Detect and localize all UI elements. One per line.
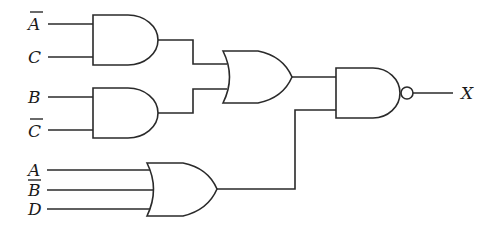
input-label-a-bar: A <box>26 12 43 34</box>
input-label-b-bar: B <box>27 180 41 200</box>
label-c-bar: C <box>28 121 41 141</box>
inversion-bubble <box>401 87 413 99</box>
label-c: C <box>28 47 41 67</box>
or-gate-2 <box>147 163 217 216</box>
input-label-c-bar: C <box>28 119 43 141</box>
label-b: B <box>27 87 41 107</box>
and-gate-1 <box>93 15 158 65</box>
label-a2: A <box>26 160 40 180</box>
logic-circuit-diagram: A C B C A B D X <box>0 0 496 236</box>
label-b-bar: B <box>27 180 41 200</box>
or-gate-1 <box>223 51 292 103</box>
label-d: D <box>27 199 42 219</box>
wire-or2-to-nand <box>217 110 336 189</box>
output-label-x: X <box>459 83 474 103</box>
nand-gate <box>336 68 400 118</box>
label-a: A <box>26 14 40 34</box>
wire-and1-to-or1 <box>158 40 227 64</box>
and-gate-2 <box>93 88 158 138</box>
wire-and2-to-or1 <box>158 89 227 113</box>
